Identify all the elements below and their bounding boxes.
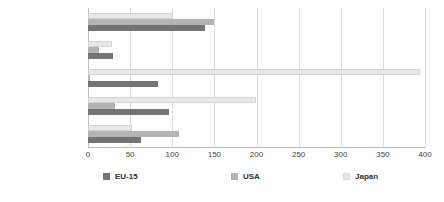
legend-label: Japan: [355, 172, 378, 181]
chart-legend: EU-15USAJapan: [88, 172, 425, 188]
legend-item-usa[interactable]: USA: [231, 172, 260, 181]
x-axis-ticks: 050100150200250300350400: [88, 150, 425, 164]
legend-swatch-usa-icon: [231, 173, 238, 180]
x-tick-label: 350: [376, 150, 389, 159]
bar-chart: Passenger cars (2)Buses & coachesRailway…: [0, 0, 444, 202]
legend-label: USA: [243, 172, 260, 181]
x-tick-label: 400: [418, 150, 431, 159]
legend-swatch-eu15-icon: [103, 173, 110, 180]
category-axis-labels: Passenger cars (2)Buses & coachesRailway…: [88, 8, 425, 148]
gridline-400: [425, 8, 426, 148]
x-tick-label: 100: [166, 150, 179, 159]
x-tick-label: 250: [292, 150, 305, 159]
legend-item-japan[interactable]: Japan: [343, 172, 378, 181]
legend-item-eu-15[interactable]: EU-15: [103, 172, 138, 181]
legend-swatch-japan-icon: [343, 173, 350, 180]
x-tick-label: 300: [334, 150, 347, 159]
x-tick-label: 50: [126, 150, 135, 159]
plot-area: Passenger cars (2)Buses & coachesRailway…: [88, 8, 425, 148]
x-tick-label: 200: [250, 150, 263, 159]
x-tick-label: 0: [86, 150, 90, 159]
legend-label: EU-15: [115, 172, 138, 181]
x-tick-label: 150: [208, 150, 221, 159]
